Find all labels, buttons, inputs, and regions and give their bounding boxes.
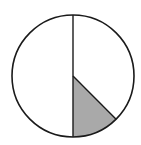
circle-diagram: [0, 0, 141, 145]
shaded-sector: [73, 76, 116, 137]
